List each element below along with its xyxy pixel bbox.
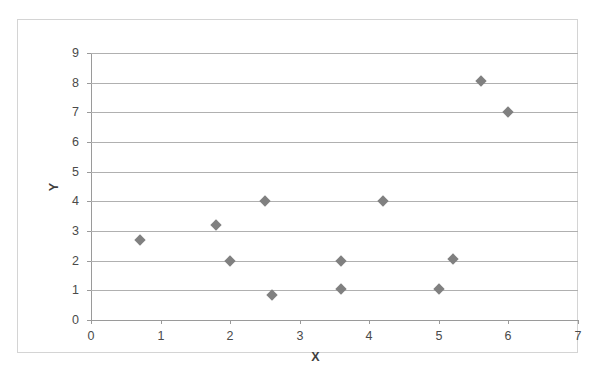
x-tick-mark-4 [369,320,370,324]
y-tick-label-8: 8 [57,77,79,90]
y-tick-label-6: 6 [57,136,79,149]
plot-area [91,53,578,320]
data-point [378,196,389,207]
x-tick-label-0: 0 [79,330,103,343]
data-point [447,254,458,265]
y-axis-title: Y [47,183,61,191]
data-point [475,76,486,87]
x-tick-label-1: 1 [149,330,173,343]
y-tick-label-7: 7 [57,106,79,119]
y-tick-label-9: 9 [57,47,79,60]
x-tick-mark-3 [300,320,301,324]
data-point [134,234,145,245]
x-tick-mark-5 [439,320,440,324]
x-axis-line [91,320,579,321]
x-tick-label-6: 6 [496,330,520,343]
chart-frame: 0123456789 01234567 Y X [17,19,578,353]
y-tick-label-4: 4 [57,195,79,208]
data-point [266,289,277,300]
data-point [224,255,235,266]
x-tick-label-5: 5 [427,330,451,343]
y-tick-label-1: 1 [57,284,79,297]
x-tick-label-2: 2 [218,330,242,343]
data-point [433,283,444,294]
x-tick-mark-7 [578,320,579,324]
data-point [211,219,222,230]
x-tick-mark-2 [230,320,231,324]
y-tick-label-3: 3 [57,225,79,238]
x-tick-label-7: 7 [566,330,590,343]
x-tick-mark-6 [508,320,509,324]
data-point [336,255,347,266]
x-tick-label-4: 4 [357,330,381,343]
x-axis-title: X [18,350,595,364]
x-tick-label-3: 3 [288,330,312,343]
y-tick-label-5: 5 [57,166,79,179]
data-point [259,196,270,207]
x-tick-mark-0 [91,320,92,324]
x-tick-mark-1 [161,320,162,324]
y-tick-label-0: 0 [57,314,79,327]
y-tick-label-2: 2 [57,255,79,268]
data-point [503,107,514,118]
data-point [336,283,347,294]
